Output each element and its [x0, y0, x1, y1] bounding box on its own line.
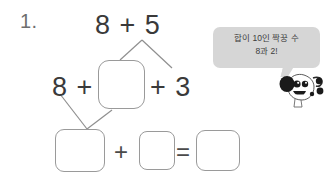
worksheet-canvas: 1. 8 + 5 8 + + 3 + = 합이 10인 짝꿍 수 8과 2!: [0, 0, 334, 180]
dog-eye-highlight-left: [297, 82, 299, 84]
dog-eye-left: [293, 80, 300, 87]
answer-box-sum-left[interactable]: [55, 129, 105, 172]
dog-body: [294, 99, 302, 107]
branch-line-right: [142, 40, 172, 68]
dog-spot-top: [316, 78, 322, 84]
answer-box-middle[interactable]: [98, 60, 145, 109]
hint-line-2: 8과 2!: [213, 45, 320, 58]
dog-ear-left: [280, 76, 295, 92]
equals-sign-bottom: =: [176, 140, 190, 164]
problem-number: 1.: [20, 10, 38, 33]
plus-sign-bottom: +: [114, 140, 128, 164]
dog-character-icon: [277, 72, 325, 110]
hint-speech-bubble: 합이 10인 짝꿍 수 8과 2!: [213, 27, 320, 68]
answer-box-sum-right[interactable]: [139, 131, 175, 170]
dog-spot-bottom: [317, 88, 324, 95]
answer-box-result[interactable]: [196, 130, 240, 171]
term-right: + 3: [150, 74, 191, 101]
dog-spot-side: [310, 92, 314, 96]
dog-eye-highlight-right: [305, 82, 307, 84]
term-left: 8 +: [52, 74, 93, 101]
branch-line-left: [120, 40, 142, 60]
hint-line-1: 합이 10인 짝꿍 수: [213, 32, 320, 45]
dog-eye-right: [302, 81, 308, 87]
carry-line-from-box: [87, 110, 112, 129]
expression-top: 8 + 5: [95, 12, 161, 39]
